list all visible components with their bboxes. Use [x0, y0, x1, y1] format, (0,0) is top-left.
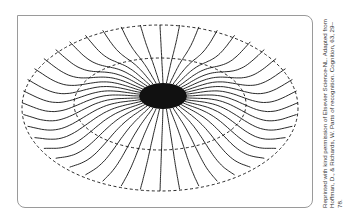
wavy-surface-diagram [0, 0, 355, 216]
profile-curve [85, 107, 150, 175]
profile-curve [70, 106, 148, 167]
profile-curve [70, 42, 148, 86]
profile-curve [140, 25, 159, 83]
profile-curve [179, 106, 251, 167]
profile-curve [103, 30, 153, 84]
profile-curve [166, 25, 179, 83]
profile-curve [186, 100, 292, 130]
figure-credit: Reprinted with kind permission of Elsevi… [321, 18, 343, 208]
profile-curve [183, 59, 276, 89]
profile-curve [173, 30, 217, 84]
profile-curve [160, 25, 163, 83]
profile-curve [170, 109, 199, 187]
profile-curve [187, 91, 297, 103]
profile-curve [56, 105, 145, 159]
profile-curve [23, 91, 139, 103]
core-region [139, 83, 187, 109]
profile-curve [181, 105, 264, 159]
